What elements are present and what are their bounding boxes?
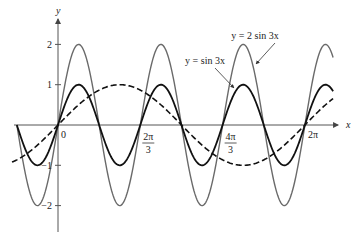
x-tick-label-num-2: 4π <box>226 131 236 142</box>
annotation-2sin3x: y = 2 sin 3x <box>231 30 278 41</box>
annotation-sin3x: y = sin 3x <box>185 55 225 66</box>
annotation-arrow-2sin3x <box>256 43 275 64</box>
x-tick-label-den-1: 3 <box>146 144 151 155</box>
y-tick-label-2: −1 <box>41 160 52 171</box>
sine-chart: xy 21−1−202π34π32π y = 2 sin 3xy = sin 3… <box>0 0 353 236</box>
y-tick-label-3: −2 <box>41 200 52 211</box>
y-tick-label-1: 1 <box>47 79 52 90</box>
y-tick-label-0: 2 <box>47 39 52 50</box>
x-tick-label-0: 0 <box>61 129 66 140</box>
x-tick-label-3: 2π <box>308 129 318 140</box>
x-tick-label-den-2: 3 <box>228 144 233 155</box>
x-tick-label-num-1: 2π <box>143 131 153 142</box>
annotations: y = 2 sin 3xy = sin 3x <box>185 30 279 88</box>
x-axis-label: x <box>345 119 351 130</box>
y-axis-label: y <box>55 5 61 16</box>
